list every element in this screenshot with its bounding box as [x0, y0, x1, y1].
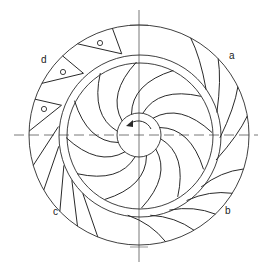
impeller-blade	[98, 73, 118, 131]
impeller-blade	[77, 157, 135, 177]
label-a: a	[229, 51, 235, 61]
impeller-blade	[117, 62, 137, 121]
rotation-arrow-icon	[126, 120, 151, 129]
impeller-blade	[132, 71, 174, 115]
vane-d-wedge	[29, 99, 61, 131]
impeller-diagram: a b c d	[0, 0, 268, 273]
hole-marker	[60, 69, 65, 74]
vane-c	[44, 146, 59, 190]
vane-b	[169, 209, 215, 215]
vane-b	[128, 215, 166, 242]
impeller-blade	[66, 138, 125, 158]
label-b: b	[225, 206, 231, 216]
impeller-blade	[153, 113, 212, 133]
ring-inner-circle	[67, 63, 213, 209]
label-c: c	[53, 207, 58, 217]
label-d: d	[41, 55, 47, 65]
vane-c	[60, 165, 64, 211]
hole-marker	[41, 106, 46, 111]
hole-marker	[97, 40, 102, 45]
impeller-blade	[143, 94, 201, 114]
impeller-blade	[161, 139, 181, 197]
impeller-blade	[105, 156, 147, 200]
impeller-drawing	[0, 0, 268, 273]
impeller-blade	[160, 128, 204, 170]
vane-a	[217, 59, 220, 113]
impeller-blade	[75, 101, 119, 143]
impeller-blade	[142, 149, 162, 208]
vane-a	[220, 87, 238, 138]
ring-outer-circle	[59, 55, 221, 217]
vane-b	[150, 215, 194, 230]
